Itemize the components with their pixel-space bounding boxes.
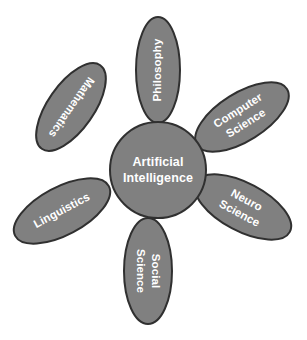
ai-disciplines-diagram: Philosophy Computer Science Neuro Scienc… bbox=[0, 0, 307, 340]
petal-linguistics[interactable]: Linguistics bbox=[4, 165, 120, 257]
center-node-label-line1: Artificial bbox=[132, 155, 183, 169]
petal-social-science-label-line2: Science bbox=[135, 249, 147, 293]
diagram-canvas: Philosophy Computer Science Neuro Scienc… bbox=[0, 0, 307, 340]
petal-philosophy[interactable]: Philosophy bbox=[136, 17, 180, 123]
petal-social-science-shape[interactable] bbox=[124, 218, 172, 324]
petal-mathematics[interactable]: Mathematics bbox=[23, 52, 119, 162]
center-node-shape[interactable] bbox=[110, 122, 206, 218]
petal-social-science[interactable]: Social Science bbox=[124, 218, 172, 324]
petal-philosophy-label: Philosophy bbox=[151, 38, 163, 101]
center-node-artificial-intelligence[interactable]: Artificial Intelligence bbox=[110, 122, 206, 218]
petal-social-science-label-line1: Social bbox=[150, 254, 162, 288]
center-node-label-line2: Intelligence bbox=[123, 171, 193, 185]
